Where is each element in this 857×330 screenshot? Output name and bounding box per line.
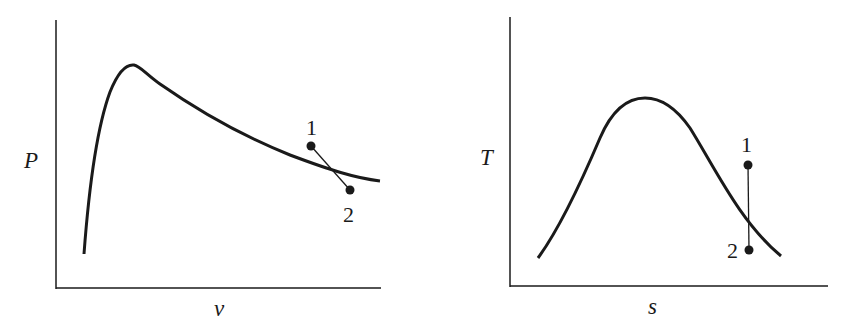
pv-x-axis-label: v: [214, 296, 225, 321]
pv-y-axis-label: P: [23, 148, 38, 173]
pv-state-2-marker: [346, 186, 355, 195]
ts-x-axis-label: s: [648, 294, 657, 319]
pv-state-1-marker: [307, 142, 316, 151]
pv-process-line: [311, 146, 350, 190]
ts-diagram: 1 2 T s: [480, 17, 828, 319]
pv-state-1-label: 1: [306, 115, 317, 140]
ts-y-axis-label: T: [480, 145, 495, 170]
thermo-diagrams: 1 2 P v 1 2 T s: [0, 0, 857, 330]
ts-state-1-marker: [744, 161, 753, 170]
pv-state-2-label: 2: [343, 202, 354, 227]
ts-state-2-marker: [745, 246, 754, 255]
ts-state-1-label: 1: [741, 132, 752, 157]
ts-saturation-curve: [538, 98, 781, 258]
pv-saturation-curve: [84, 65, 380, 254]
ts-process-line: [748, 165, 749, 250]
pv-diagram: 1 2 P v: [23, 20, 381, 321]
ts-state-2-label: 2: [727, 238, 738, 263]
